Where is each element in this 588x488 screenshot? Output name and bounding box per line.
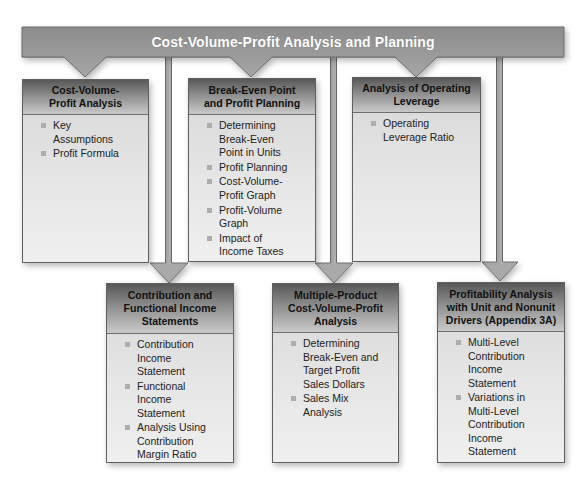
topic-item-list: Contribution Income Statement Functional…: [107, 334, 233, 462]
topic-item: Profit Formula: [53, 147, 144, 161]
topic-title: Cost-Volume- Profit Analysis: [49, 84, 122, 110]
square-bullet-icon: [291, 341, 296, 346]
topic-item-text: Profit-Volume Graph: [219, 204, 282, 230]
topic-header: Analysis of Operating Leverage: [353, 78, 480, 113]
topic-item-list: Determining Break-Even and Target Profit…: [273, 333, 398, 419]
topic-item-text: Key Assumptions: [53, 119, 113, 145]
topic-item-text: Analysis Using Contribution Margin Ratio: [137, 421, 206, 460]
topic-item-text: Determining Break-Even Point in Units: [219, 119, 281, 158]
topic-item-text: Cost-Volume- Profit Graph: [219, 175, 283, 201]
connector-leg: [496, 56, 503, 264]
topic-item-list: Multi-Level Contribution Income Statemen…: [438, 332, 564, 459]
topic-item: Contribution Income Statement: [137, 338, 229, 379]
topic-item: Operating Leverage Ratio: [383, 117, 476, 144]
square-bullet-icon: [207, 236, 212, 241]
topic-item: Analysis Using Contribution Margin Ratio: [137, 421, 229, 462]
topic-item-list: Determining Break-Even Point in Units Pr…: [189, 115, 315, 259]
topic-item-text: Sales Mix Analysis: [303, 392, 349, 418]
topic-item-text: Contribution Income Statement: [137, 338, 194, 377]
square-bullet-icon: [207, 123, 212, 128]
down-arrow-icon: [315, 263, 353, 283]
topic-title: Multiple-Product Cost-Volume-Profit Anal…: [288, 289, 383, 328]
topic-item: Profit-Volume Graph: [219, 204, 311, 231]
topic-item: Cost-Volume- Profit Graph: [219, 175, 311, 202]
topic-item: Multi-Level Contribution Income Statemen…: [468, 336, 560, 390]
topic-item: Sales Mix Analysis: [303, 392, 394, 419]
square-bullet-icon: [456, 395, 461, 400]
square-bullet-icon: [207, 208, 212, 213]
topic-title: Break-Even Point and Profit Planning: [204, 84, 300, 110]
topic-box-profitability-analysis: Profitability Analysis with Unit and Non…: [437, 282, 565, 463]
topic-title: Contribution and Functional Income State…: [124, 289, 217, 328]
topic-box-operating-leverage: Analysis of Operating Leverage Operating…: [352, 77, 481, 262]
square-bullet-icon: [291, 396, 296, 401]
square-bullet-icon: [207, 179, 212, 184]
topic-title: Analysis of Operating Leverage: [362, 82, 471, 108]
square-bullet-icon: [41, 151, 46, 156]
topic-header: Cost-Volume- Profit Analysis: [23, 80, 148, 115]
topic-item-text: Determining Break-Even and Target Profit…: [303, 337, 378, 390]
topic-item-list: Operating Leverage Ratio: [353, 113, 480, 144]
topic-item: Profit Planning: [219, 161, 311, 175]
topic-item-text: Profit Planning: [219, 161, 287, 173]
square-bullet-icon: [41, 123, 46, 128]
down-arrow-icon: [150, 263, 188, 283]
topic-header: Profitability Analysis with Unit and Non…: [438, 283, 564, 332]
connector-leg: [165, 56, 172, 265]
topic-box-multiple-product: Multiple-Product Cost-Volume-Profit Anal…: [272, 283, 399, 463]
topic-item: Variations in Multi-Level Contribution I…: [468, 391, 560, 459]
topic-item-text: Operating Leverage Ratio: [383, 117, 454, 143]
topic-item-text: Impact of Income Taxes: [219, 232, 284, 258]
topic-item-list: Key Assumptions Profit Formula: [23, 115, 148, 161]
topic-box-break-even: Break-Even Point and Profit Planning Det…: [188, 78, 316, 262]
topic-box-income-statements: Contribution and Functional Income State…: [106, 283, 234, 463]
square-bullet-icon: [125, 342, 130, 347]
square-bullet-icon: [125, 425, 130, 430]
square-bullet-icon: [125, 384, 130, 389]
topic-item-text: Functional Income Statement: [137, 380, 185, 419]
topic-item: Impact of Income Taxes: [219, 232, 311, 259]
topic-item: Determining Break-Even and Target Profit…: [303, 337, 394, 391]
topic-title: Profitability Analysis with Unit and Non…: [446, 288, 556, 327]
topic-header: Break-Even Point and Profit Planning: [189, 79, 315, 115]
square-bullet-icon: [456, 340, 461, 345]
topic-item-text: Profit Formula: [53, 147, 119, 159]
square-bullet-icon: [371, 121, 376, 126]
topic-item: Functional Income Statement: [137, 380, 229, 421]
square-bullet-icon: [207, 165, 212, 170]
topic-header: Multiple-Product Cost-Volume-Profit Anal…: [273, 284, 398, 333]
topic-item-text: Multi-Level Contribution Income Statemen…: [468, 336, 525, 389]
connector-leg: [330, 56, 337, 265]
topic-box-cvp-analysis: Cost-Volume- Profit Analysis Key Assumpt…: [22, 79, 149, 263]
topic-item: Key Assumptions: [53, 119, 144, 146]
topic-item: Determining Break-Even Point in Units: [219, 119, 311, 160]
diagram-title: Cost-Volume-Profit Analysis and Planning: [22, 27, 564, 57]
down-arrow-icon: [482, 262, 518, 281]
topic-header: Contribution and Functional Income State…: [107, 284, 233, 334]
topic-item-text: Variations in Multi-Level Contribution I…: [468, 391, 525, 457]
